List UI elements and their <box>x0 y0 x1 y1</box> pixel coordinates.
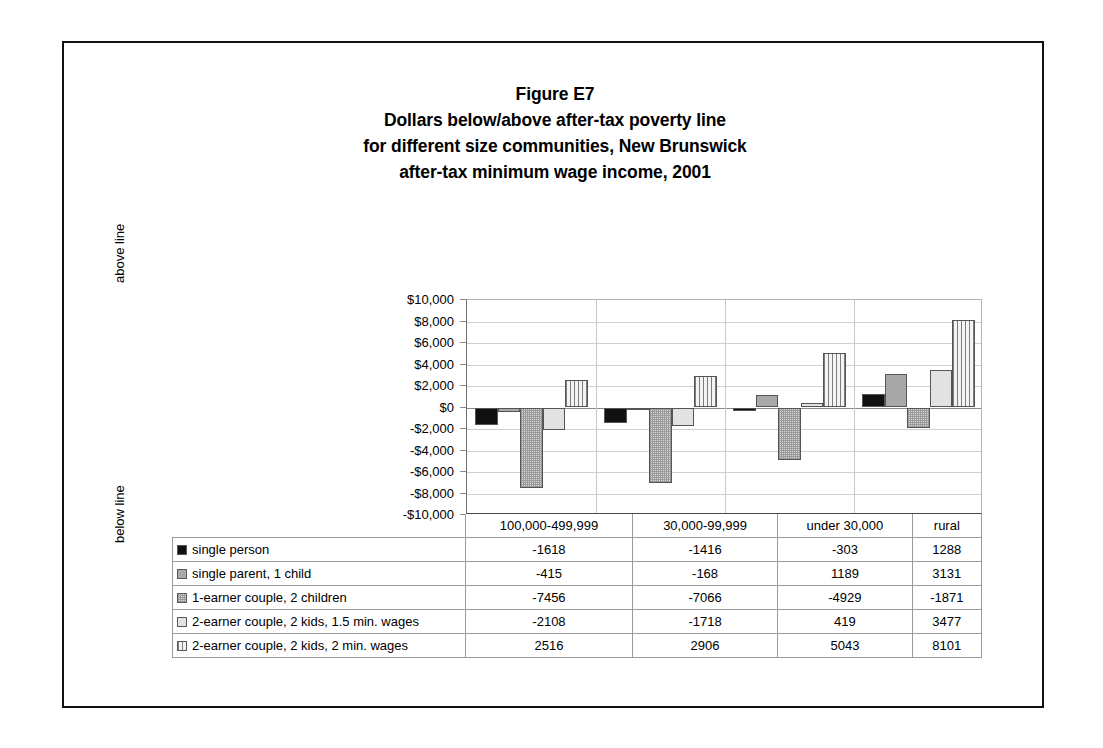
data-cell: 2516 <box>466 634 633 658</box>
bar <box>694 376 717 407</box>
gridline <box>467 365 981 366</box>
data-cell: -4929 <box>778 586 912 610</box>
figure-page: Figure E7 Dollars below/above after-tax … <box>0 0 1103 748</box>
data-cell: 1189 <box>778 562 912 586</box>
bar <box>885 374 908 408</box>
data-table-body: 100,000-499,99930,000-99,999under 30,000… <box>173 514 982 658</box>
data-cell: 419 <box>778 610 912 634</box>
legend-label-cell: single person <box>173 538 466 562</box>
legend-swatch-icon <box>177 569 187 579</box>
legend-label-text: 2-earner couple, 2 kids, 2 min. wages <box>192 638 408 653</box>
bar <box>475 408 498 425</box>
bar <box>672 408 695 426</box>
data-cell: 5043 <box>778 634 912 658</box>
data-cell: -7456 <box>466 586 633 610</box>
table-row: single person-1618-1416-3031288 <box>173 538 982 562</box>
data-cell: -1718 <box>632 610 777 634</box>
data-cell: 1288 <box>912 538 981 562</box>
data-cell: 2906 <box>632 634 777 658</box>
plot-wrapper: $10,000$8,000$6,000$4,000$2,000$0-$2,000… <box>392 299 982 514</box>
y-tick-label: $4,000 <box>414 356 454 371</box>
bar <box>604 408 627 423</box>
data-cell: -2108 <box>466 610 633 634</box>
legend-label-text: single parent, 1 child <box>192 566 311 581</box>
y-tick-label: $2,000 <box>414 378 454 393</box>
data-cell: -1416 <box>632 538 777 562</box>
y-tick-label: $8,000 <box>414 313 454 328</box>
y-tick-label: -$4,000 <box>410 442 454 457</box>
bar <box>823 353 846 407</box>
table-header-row: 100,000-499,99930,000-99,999under 30,000… <box>173 514 982 538</box>
figure-border-frame: Figure E7 Dollars below/above after-tax … <box>62 41 1044 708</box>
data-cell: -415 <box>466 562 633 586</box>
gridline <box>467 494 981 495</box>
bar <box>778 408 801 461</box>
y-tick-label: -$8,000 <box>410 485 454 500</box>
group-separator <box>596 300 597 513</box>
figure-title-block: Figure E7 Dollars below/above after-tax … <box>64 81 1046 185</box>
legend-label-text: 2-earner couple, 2 kids, 1.5 min. wages <box>192 614 419 629</box>
data-cell: -1871 <box>912 586 981 610</box>
bar <box>862 394 885 408</box>
legend-label-cell: 1-earner couple, 2 children <box>173 586 466 610</box>
bar <box>498 408 521 412</box>
axis-caption-below-line: below line <box>112 485 127 543</box>
bar <box>565 380 588 407</box>
bar <box>930 370 953 407</box>
y-tick-label: -$6,000 <box>410 464 454 479</box>
table-row: 1-earner couple, 2 children-7456-7066-49… <box>173 586 982 610</box>
category-header-cell: 30,000-99,999 <box>632 514 777 538</box>
legend-label-cell: 2-earner couple, 2 kids, 2 min. wages <box>173 634 466 658</box>
data-cell: -7066 <box>632 586 777 610</box>
legend-label-cell: single parent, 1 child <box>173 562 466 586</box>
gridline <box>467 451 981 452</box>
title-line-2: Dollars below/above after-tax poverty li… <box>64 107 1046 133</box>
data-cell: 3477 <box>912 610 981 634</box>
title-line-1: Figure E7 <box>64 81 1046 107</box>
legend-swatch-icon <box>177 641 187 651</box>
bar <box>649 408 672 484</box>
gridline <box>467 343 981 344</box>
data-cell: 8101 <box>912 634 981 658</box>
table-row: 2-earner couple, 2 kids, 2 min. wages251… <box>173 634 982 658</box>
legend-label-cell: 2-earner couple, 2 kids, 1.5 min. wages <box>173 610 466 634</box>
title-line-3: for different size communities, New Brun… <box>64 133 1046 159</box>
group-separator <box>854 300 855 513</box>
data-cell: -1618 <box>466 538 633 562</box>
legend-swatch-icon <box>177 617 187 627</box>
y-tick-label: $6,000 <box>414 335 454 350</box>
category-header-cell: 100,000-499,999 <box>466 514 633 538</box>
y-tick-label: -$2,000 <box>410 421 454 436</box>
data-table: 100,000-499,99930,000-99,999under 30,000… <box>172 514 982 658</box>
bar <box>733 408 756 411</box>
gridline <box>467 472 981 473</box>
legend-label-text: 1-earner couple, 2 children <box>192 590 347 605</box>
bar <box>907 408 930 428</box>
legend-label-text: single person <box>192 542 269 557</box>
gridline <box>467 322 981 323</box>
bar <box>756 395 779 408</box>
table-header-blank-cell <box>173 514 466 538</box>
category-header-cell: rural <box>912 514 981 538</box>
legend-swatch-icon <box>177 593 187 603</box>
data-cell: 3131 <box>912 562 981 586</box>
table-row: single parent, 1 child-415-16811893131 <box>173 562 982 586</box>
category-header-cell: under 30,000 <box>778 514 912 538</box>
plot-area <box>466 299 982 514</box>
y-tick-label: $0 <box>440 399 454 414</box>
legend-swatch-icon <box>177 545 187 555</box>
data-cell: -168 <box>632 562 777 586</box>
bar <box>543 408 566 431</box>
group-separator <box>725 300 726 513</box>
y-tick-label: $10,000 <box>407 292 454 307</box>
y-axis-tick-labels: $10,000$8,000$6,000$4,000$2,000$0-$2,000… <box>392 299 460 514</box>
data-cell: -303 <box>778 538 912 562</box>
axis-caption-above-line: above line <box>112 224 127 283</box>
bar <box>520 408 543 488</box>
bar <box>801 403 824 408</box>
title-line-4: after-tax minimum wage income, 2001 <box>64 159 1046 185</box>
bar <box>952 320 975 407</box>
table-row: 2-earner couple, 2 kids, 1.5 min. wages-… <box>173 610 982 634</box>
bar <box>627 408 650 411</box>
